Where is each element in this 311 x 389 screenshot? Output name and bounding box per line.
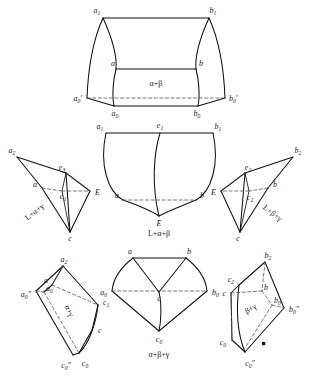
label-c1: c1 xyxy=(103,298,110,308)
bl-c0-c0pp xyxy=(73,353,79,355)
mr-dashed-b-c2 xyxy=(249,188,268,191)
label-e2: e2 xyxy=(245,163,252,173)
label-e1: e1 xyxy=(157,121,164,131)
label-a: a xyxy=(111,59,115,68)
label-a: a xyxy=(33,180,37,189)
br-c2-curve-c0pp xyxy=(237,285,245,352)
label-b0-prime: b0′ xyxy=(229,94,238,104)
b0p-b0-edge xyxy=(198,98,225,106)
label-c0-dprime: c0″ xyxy=(245,359,255,369)
label-c2: c2 xyxy=(247,193,254,203)
label-a0-prime: a0′ xyxy=(73,94,82,104)
label-c0-dprime: c0″ xyxy=(61,361,71,371)
bc-a-c xyxy=(133,258,159,292)
marker-dot xyxy=(262,342,265,345)
left-outer-curve xyxy=(87,18,103,98)
bl-dashed-a2-a xyxy=(52,266,63,285)
bottom-center-area-label: α+β+γ xyxy=(149,350,170,359)
ml-c-E xyxy=(70,191,90,232)
label-a2: a2 xyxy=(9,146,16,156)
bottom-center-panel: a b a0 c b0 c0 α+β+γ xyxy=(100,247,219,359)
mr-b2-e2 xyxy=(245,157,293,173)
bl-dashed-a-c1 xyxy=(52,285,98,305)
label-a0: a0 xyxy=(100,288,107,298)
left-inner-curve-lower xyxy=(113,69,116,106)
label-a0: a0 xyxy=(112,109,119,119)
mc-right-bottom-curve xyxy=(159,200,196,216)
label-a: a xyxy=(115,191,119,200)
label-c: c xyxy=(68,234,72,243)
label-c2: c2 xyxy=(228,275,235,285)
label-e3: e3 xyxy=(59,163,66,173)
mid-right-area-label: L+β+γ xyxy=(261,203,284,224)
label-b1: b1 xyxy=(210,6,217,16)
label-c1: c1 xyxy=(60,192,67,202)
label-E: E xyxy=(156,219,162,228)
label-c: c xyxy=(98,326,102,335)
label-c0: c0 xyxy=(220,338,227,348)
label-b2: b2 xyxy=(295,146,302,156)
label-b2: b2 xyxy=(265,251,272,261)
label-c0: c0 xyxy=(156,335,163,345)
label-b: b xyxy=(200,191,204,200)
label-c: c xyxy=(157,294,161,303)
label-b0: b0 xyxy=(212,288,219,298)
bl-dashed-a0pp-a0 xyxy=(36,291,44,292)
mid-right-panel: b2 e2 b c2 E c L+β+γ xyxy=(210,146,301,243)
label-c0: c0 xyxy=(82,359,89,369)
mc-left-curve xyxy=(104,133,123,200)
label-b0-dprime: b0″ xyxy=(289,305,300,315)
bottom-left-panel: a2 a a0 a0″ c1 c c0 c0″ α+γ xyxy=(21,255,110,371)
bottom-left-area-label: α+γ xyxy=(63,304,76,319)
label-b: b xyxy=(199,59,203,68)
label-b: b xyxy=(273,180,277,189)
br-dashed-c-c0-inner xyxy=(231,293,232,340)
bottom-right-panel: b2 c2 b b0 b0″ c c0 c0″ β+γ xyxy=(220,251,300,369)
top-area-label: α+β xyxy=(150,79,163,88)
mid-center-panel: a1 e1 b1 a b E L+α+β xyxy=(97,121,222,238)
bottom-right-area-label: β+γ xyxy=(243,302,258,316)
label-E: E xyxy=(210,188,216,197)
top-panel: a1 b1 a b a0′ b0′ a0 b0 α+β xyxy=(73,6,237,119)
mid-left-area-label: L+α+γ xyxy=(23,202,46,223)
bc-a0-c0 xyxy=(112,291,159,331)
bc-left-curve xyxy=(112,258,133,291)
label-c: c xyxy=(236,234,240,243)
bl-a0pp-c0pp xyxy=(36,291,73,355)
bl-c1-curve-c0 xyxy=(79,305,98,353)
label-b: b xyxy=(187,247,191,256)
ml-a2-a xyxy=(17,157,42,188)
geometry-figure-canvas: a1 b1 a b a0′ b0′ a0 b0 α+β a1 e1 b1 a b… xyxy=(0,0,311,389)
ml-inner-fold xyxy=(62,173,70,232)
bl-dashed-a0-c0 xyxy=(44,292,79,353)
mid-center-area-label: L+α+β xyxy=(148,229,170,238)
mc-median-curve xyxy=(154,133,160,216)
br-dashed-b-b0 xyxy=(262,291,272,305)
br-b0pp-c0pp xyxy=(245,308,284,352)
label-a2: a2 xyxy=(61,255,68,265)
ml-dashed-a-c1 xyxy=(42,188,62,191)
label-E: E xyxy=(94,188,100,197)
mr-c-E xyxy=(221,191,240,232)
right-outer-curve xyxy=(209,18,225,98)
bc-b-c xyxy=(159,258,186,292)
label-b0: b0 xyxy=(194,109,201,119)
label-c: c xyxy=(222,289,226,298)
mr-e2-c xyxy=(240,173,245,232)
a0p-a0-edge xyxy=(87,98,114,106)
label-a: a xyxy=(128,247,132,256)
label-a0-dprime: a0″ xyxy=(21,290,32,300)
mid-left-panel: a2 e3 a c1 E c L+α+γ xyxy=(9,146,100,243)
bc-right-curve xyxy=(186,258,207,291)
right-inner-curve-lower xyxy=(196,69,199,106)
label-a1: a1 xyxy=(94,6,101,16)
bl-c-c0 xyxy=(79,330,92,353)
br-b2-c2 xyxy=(239,262,265,285)
br-dashed-b-c xyxy=(231,291,262,293)
label-a1: a1 xyxy=(97,122,104,132)
mc-left-bottom-curve xyxy=(123,200,159,216)
label-b: b xyxy=(264,283,268,292)
bc-b0-c0 xyxy=(159,291,207,331)
label-b1: b1 xyxy=(215,122,222,132)
bl-a2-c1 xyxy=(63,266,98,305)
